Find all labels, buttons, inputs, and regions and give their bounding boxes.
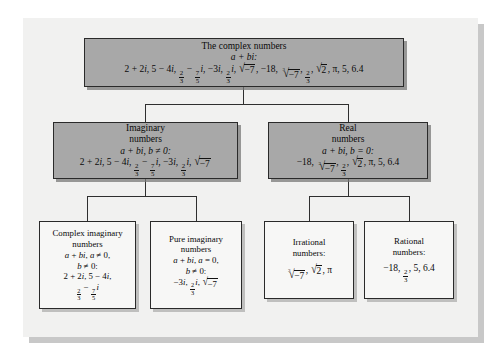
connector-root-down: [243, 87, 244, 104]
node-real-numbers: Real numbers a + bi, b = 0: −18, 3√−7, 2…: [268, 122, 428, 179]
complex-members: 2 + 2i, 5 − 4i, 23 − 75i, −3i, 23i, √−7,…: [125, 64, 364, 85]
irrational-members-line1: 3√−7, √2, π: [286, 265, 332, 283]
complex-title: The complex numbers: [202, 41, 287, 53]
connector-real-down: [348, 179, 349, 196]
connector-to-rational: [409, 196, 410, 221]
complex-imaginary-members-line2: 23 − 75i: [76, 282, 99, 302]
pure-imaginary-title-line1: Pure imaginary: [169, 234, 223, 245]
complex-imaginary-title-line2: numbers: [72, 239, 102, 250]
pure-imaginary-title-line2: numbers: [181, 244, 211, 255]
connector-to-complex-imaginary: [87, 196, 88, 221]
connector-to-pure-imaginary: [196, 196, 197, 221]
real-members: −18, 3√−7, 23, √2, π, 5, 6.4: [297, 157, 400, 178]
connector-imaginary-down: [145, 179, 146, 196]
rational-title-line2: numbers:: [393, 247, 426, 258]
node-pure-imaginary-numbers: Pure imaginary numbers a + bi, a = 0, b …: [150, 221, 242, 309]
complex-imaginary-title-line1: Complex imaginary: [52, 228, 122, 239]
complex-imaginary-condition-line2: b ≠ 0:: [77, 261, 97, 272]
pure-imaginary-members-line1: −3i, 23i, √−7: [174, 277, 219, 297]
diagram-canvas: The complex numbers a + bi: 2 + 2i, 5 − …: [23, 18, 478, 337]
imaginary-title-line2: numbers: [129, 134, 162, 146]
complex-imaginary-condition-line1: a + bi, a ≠ 0,: [65, 250, 110, 261]
node-irrational-numbers: Irrational numbers: 3√−7, √2, π: [264, 221, 354, 299]
connector-to-irrational: [309, 196, 310, 221]
irrational-title-line2: numbers:: [293, 248, 326, 259]
node-complex-numbers: The complex numbers a + bi: 2 + 2i, 5 − …: [84, 38, 404, 87]
connector-to-real: [348, 104, 349, 122]
complex-imaginary-members-line1: 2 + 2i, 5 − 4i,: [64, 271, 112, 282]
imaginary-condition: a + bi, b ≠ 0:: [120, 146, 171, 158]
pure-imaginary-condition-line1: a + bi, a = 0,: [173, 255, 218, 266]
imaginary-title-line1: Imaginary: [126, 123, 165, 135]
connector-level2-left-bar: [87, 196, 196, 197]
node-complex-imaginary-numbers: Complex imaginary numbers a + bi, a ≠ 0,…: [39, 221, 136, 309]
real-condition: a + bi, b = 0:: [322, 146, 374, 158]
irrational-title-line1: Irrational: [293, 237, 326, 248]
connector-level1-bar: [145, 104, 348, 105]
diagram-panel: The complex numbers a + bi: 2 + 2i, 5 − …: [23, 18, 478, 337]
imaginary-members: 2 + 2i, 5 − 4i, 23 − 75i, −3i, 23i, √−7: [80, 157, 211, 178]
rational-title-line1: Rational: [394, 236, 424, 247]
real-title-line1: Real: [339, 123, 356, 135]
rational-members-line1: −18, 23, 5, 6.4: [383, 263, 435, 284]
connector-to-imaginary: [145, 104, 146, 122]
figure-root: The complex numbers a + bi: 2 + 2i, 5 − …: [0, 0, 498, 359]
node-imaginary-numbers: Imaginary numbers a + bi, b ≠ 0: 2 + 2i,…: [53, 122, 238, 179]
real-title-line2: numbers: [332, 134, 365, 146]
node-rational-numbers: Rational numbers: −18, 23, 5, 6.4: [364, 221, 454, 299]
connector-level2-right-bar: [309, 196, 409, 197]
